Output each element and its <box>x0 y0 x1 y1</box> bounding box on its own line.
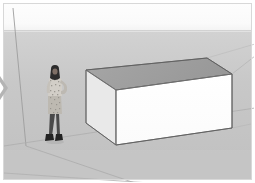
3d-viewport[interactable] <box>0 0 255 183</box>
ground-foreground-tone <box>4 150 251 179</box>
app-root: 3D Modeling Viewport Perspective view wh… <box>0 0 255 183</box>
figure-shadow <box>46 140 64 144</box>
figure-face <box>52 68 57 74</box>
sky-band <box>4 4 251 32</box>
